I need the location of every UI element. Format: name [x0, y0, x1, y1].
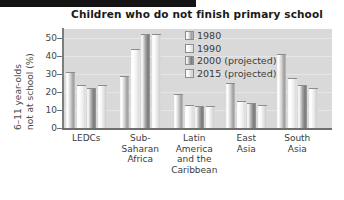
bar — [77, 85, 86, 128]
x-axis-category-label-line: Sub- — [109, 133, 171, 144]
bar — [298, 85, 307, 128]
legend-swatch-icon — [185, 44, 194, 53]
bar — [152, 34, 161, 128]
x-axis-category-label-line: LEDCs — [55, 133, 117, 144]
x-axis-category-label-line: Africa — [109, 154, 171, 165]
bar — [87, 88, 96, 128]
legend-item-label: 1980 — [197, 30, 221, 41]
bar — [226, 83, 235, 128]
x-axis-category-label-line: Saharan — [109, 144, 171, 155]
bar — [288, 78, 297, 128]
y-axis-tick-label: 40 — [35, 51, 57, 61]
bar — [66, 72, 75, 128]
chart-figure: Children who do not finish primary schoo… — [0, 0, 344, 200]
legend-swatch-icon — [185, 56, 194, 65]
bar — [277, 54, 286, 128]
legend-item-label: 2015 (projected) — [197, 68, 276, 79]
x-axis-line — [62, 128, 332, 130]
x-axis-category-label-line: South — [266, 133, 328, 144]
legend-swatch-icon — [185, 69, 194, 78]
x-axis-category-label: Sub-SaharanAfrica — [109, 133, 171, 165]
legend-swatch-icon — [185, 31, 194, 40]
y-axis-title: 6–11 year-olds not at school (%) — [2, 26, 32, 130]
y-axis-tick-label: 50 — [35, 33, 57, 43]
x-axis-category-label-line: and the — [163, 154, 225, 165]
y-axis-tick-label: 20 — [35, 87, 57, 97]
legend-item[interactable]: 1990 — [185, 43, 276, 55]
bar — [206, 106, 215, 128]
legend-item[interactable]: 1980 — [185, 30, 276, 42]
y-axis-tick-label: 10 — [35, 105, 57, 115]
bar — [120, 76, 129, 128]
x-axis-category-label: LEDCs — [55, 133, 117, 144]
bar — [98, 85, 107, 128]
y-axis-title-line-1: 6–11 year-olds — [13, 64, 23, 130]
y-axis-tick-label: 0 — [35, 123, 57, 133]
bar — [247, 103, 256, 128]
y-axis-tick-labels: 01020304050 — [30, 0, 57, 200]
bar — [185, 105, 194, 128]
x-axis-category-label-line: Asia — [266, 144, 328, 155]
bar — [195, 106, 204, 128]
bar — [258, 105, 267, 128]
legend-item-label: 2000 (projected) — [197, 55, 276, 66]
bar — [131, 49, 140, 128]
y-axis-tick-label: 30 — [35, 69, 57, 79]
bar — [237, 101, 246, 128]
legend-item[interactable]: 2015 (projected) — [185, 68, 276, 80]
x-axis-category-label: SouthAsia — [266, 133, 328, 154]
bar — [309, 88, 318, 128]
bar — [174, 94, 183, 128]
legend-item-label: 1990 — [197, 43, 221, 54]
chart-legend: 198019902000 (projected)2015 (projected) — [185, 30, 276, 80]
x-axis-category-label-line: Caribbean — [163, 165, 225, 176]
bar — [141, 34, 150, 128]
y-axis-line — [62, 28, 64, 129]
chart-title: Children who do not finish primary schoo… — [62, 8, 332, 20]
legend-item[interactable]: 2000 (projected) — [185, 55, 276, 67]
